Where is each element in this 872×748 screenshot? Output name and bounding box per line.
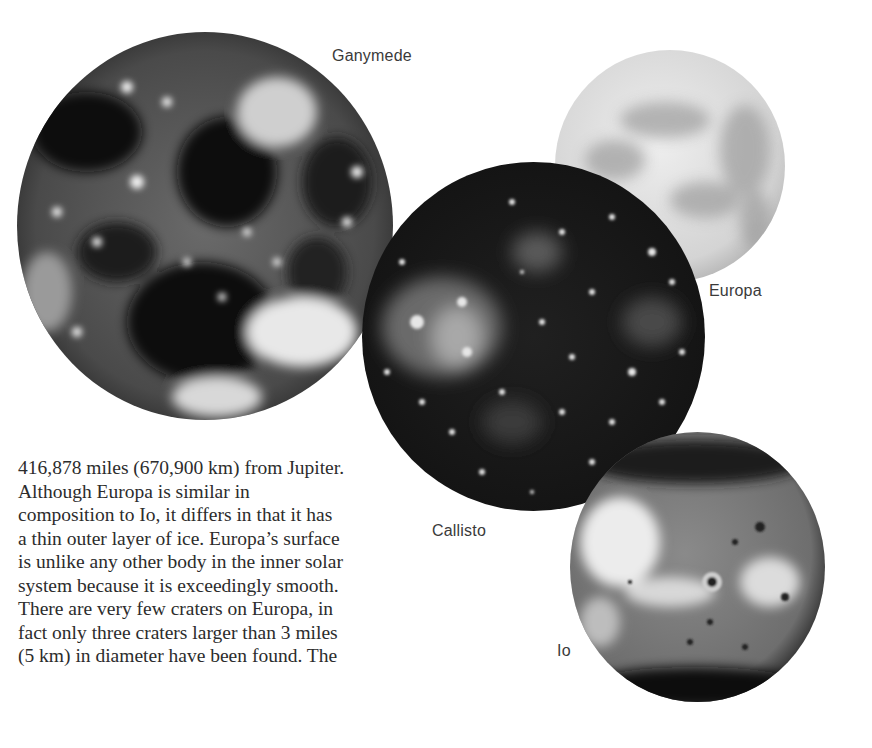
paragraph-line: There are very few craters on Europa, in (18, 597, 438, 621)
callisto-label: Callisto (432, 522, 486, 540)
paragraph-line: a thin outer layer of ice. Europa’s surf… (18, 527, 438, 551)
paragraph-line: composition to Io, it differs in that it… (18, 503, 438, 527)
paragraph-line: is unlike any other body in the inner so… (18, 550, 438, 574)
paragraph-line: 416,878 miles (670,900 km) from Jupiter. (18, 456, 438, 480)
body-paragraph: 416,878 miles (670,900 km) from Jupiter.… (18, 456, 438, 668)
ganymede-label: Ganymede (332, 47, 412, 65)
ganymede-image (17, 32, 393, 420)
io-surface-icon (570, 432, 825, 702)
io-label: Io (557, 642, 571, 660)
paragraph-line: (5 km) in diameter have been found. The (18, 644, 438, 668)
paragraph-line: system because it is exceedingly smooth. (18, 574, 438, 598)
paragraph-line: Although Europa is similar in (18, 480, 438, 504)
europa-label: Europa (709, 282, 762, 300)
ganymede-surface-icon (17, 32, 393, 420)
paragraph-line: fact only three craters larger than 3 mi… (18, 621, 438, 645)
io-image (570, 432, 825, 702)
